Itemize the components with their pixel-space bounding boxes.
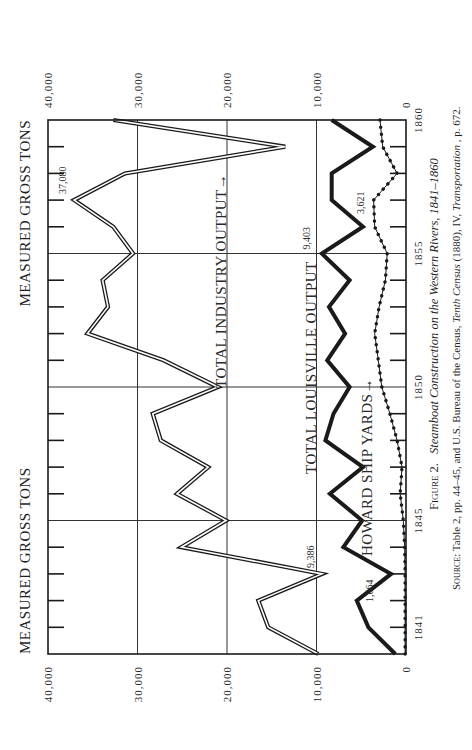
y-tick-label-left: 10,000 [311, 666, 323, 702]
figure-caption: Figure 2. Steamboat Construction on the … [427, 157, 441, 510]
x-tick-label: 1860 [412, 107, 424, 133]
y-tick-label-right: 0 [400, 102, 412, 109]
annotation-value: 3,621 [355, 192, 366, 215]
source-italic-1: Tenth Census [450, 264, 462, 323]
x-tick-label: 1841 [412, 614, 424, 640]
y-tick-label-right: 30,000 [132, 72, 144, 108]
y-tick-label-left: 20,000 [221, 666, 233, 702]
y-axis-title-right: MEASURED GROSS TONS [17, 120, 33, 307]
x-tick-label: 1850 [412, 374, 424, 400]
figure-source: Source: Table 2, pp. 44–45, and U.S. Bur… [450, 106, 463, 590]
source-italic-2: Transportation [450, 144, 462, 211]
annotation-value: 9,386 [305, 545, 316, 568]
caption-title: Steamboat Construction on the Western Ri… [427, 157, 441, 453]
series-label-industry: TOTAL INDUSTRY OUTPUT→ [213, 174, 229, 388]
y-tick-label-left: 0 [400, 666, 412, 673]
steamboat-chart: 184118451850185518600010,00010,00020,000… [0, 0, 472, 750]
y-tick-label-right: 10,000 [311, 72, 323, 108]
series-label-howard: HOWARD SHIP YARDS→ [359, 378, 375, 556]
rotated-figure: 184118451850185518600010,00010,00020,000… [0, 0, 472, 750]
x-tick-label: 1845 [412, 508, 424, 534]
source-prefix: Source: [450, 554, 462, 590]
source-text-3: , p. 672. [450, 106, 462, 142]
y-tick-label-right: 40,000 [42, 72, 54, 108]
y-tick-label-right: 20,000 [221, 72, 233, 108]
series-label-louisville: TOTAL LOUISVILLE OUTPUT [303, 261, 319, 474]
annotation-value: 37,080 [57, 167, 68, 195]
source-text-2: (1880), IV, [450, 211, 463, 262]
annotation-value: 1,664 [364, 579, 375, 602]
y-axis-title-left: MEASURED GROSS TONS [17, 468, 33, 655]
y-tick-label-left: 40,000 [42, 666, 54, 702]
y-tick-label-left: 30,000 [132, 666, 144, 702]
annotation-value: 9,403 [301, 227, 312, 250]
source-text-1: Table 2, pp. 44–45, and U.S. Bureau of t… [450, 323, 462, 551]
caption-prefix: Figure 2. [427, 463, 441, 510]
x-tick-label: 1855 [412, 241, 424, 267]
